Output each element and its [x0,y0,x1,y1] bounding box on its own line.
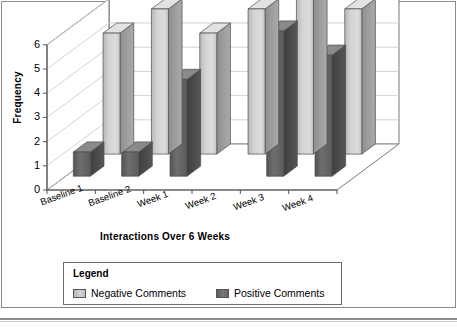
y-tick-label: 3 [26,111,40,122]
legend-label-negative: Negative Comments [91,287,186,299]
y-tick-label: 5 [26,63,40,74]
y-tick-label: 0 [26,184,40,195]
y-tick-label: 6 [26,39,40,50]
legend-item-positive: Positive Comments [216,287,324,299]
bar-negative [103,23,134,154]
bottom-rule-shadow [0,321,457,322]
plot-area: Frequency Interactions Over 6 Weeks 6543… [0,0,457,260]
chart-canvas [0,0,457,260]
bottom-rule [0,318,457,320]
y-tick-label: 2 [26,136,40,147]
legend-item-negative: Negative Comments [73,287,186,299]
bar-negative [345,0,376,154]
bar-negative [200,23,231,154]
y-tick-label: 4 [26,87,40,98]
bar-negative [151,0,182,154]
legend-box: Legend Negative Comments Positive Commen… [63,262,342,305]
positive-swatch-icon [216,289,229,298]
y-tick-label: 1 [26,160,40,171]
y-axis-title: Frequency [12,53,23,143]
negative-swatch-icon [73,289,86,298]
bar-negative [296,0,327,154]
chart-figure: Frequency Interactions Over 6 Weeks 6543… [0,0,457,327]
x-axis-title: Interactions Over 6 Weeks [0,231,330,242]
legend-title: Legend [73,268,109,279]
legend-label-positive: Positive Comments [234,287,324,299]
bar-negative [248,0,279,154]
